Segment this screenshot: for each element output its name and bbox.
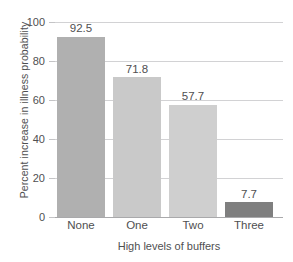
x-tick-label-one: One — [113, 219, 161, 231]
y-tick-label-20: 20 — [33, 173, 49, 184]
x-axis-tick-layer: None One Two Three — [55, 219, 283, 237]
y-tick-label-60: 60 — [33, 95, 49, 106]
bar-value-three: 7.7 — [241, 189, 257, 201]
x-axis-title: High levels of buffers — [55, 240, 283, 252]
y-tick-label-0: 0 — [39, 212, 49, 223]
y-axis-tick-layer: 0 20 40 60 80 100 — [0, 22, 55, 217]
y-tick-40: 40 — [0, 132, 55, 146]
bar-one: 71.8 — [113, 77, 161, 217]
bar-value-one: 71.8 — [126, 64, 148, 76]
x-tick-label-two: Two — [169, 219, 217, 231]
bar-three: 7.7 — [225, 202, 273, 217]
bar-value-two: 57.7 — [182, 91, 204, 103]
bar-chart-figure: Percent increase in illness probability … — [0, 0, 293, 262]
x-axis-baseline — [55, 217, 283, 218]
y-tick-60: 60 — [0, 93, 55, 107]
bar-two: 57.7 — [169, 105, 217, 218]
y-tick-20: 20 — [0, 171, 55, 185]
x-tick-label-three: Three — [225, 219, 273, 231]
y-tick-label-40: 40 — [33, 134, 49, 145]
bar-none: 92.5 — [57, 37, 105, 217]
x-tick-label-none: None — [57, 219, 105, 231]
y-tick-100: 100 — [0, 15, 55, 29]
y-tick-0: 0 — [0, 210, 55, 224]
plot-area: 92.5 71.8 57.7 7.7 — [55, 22, 283, 217]
y-tick-label-80: 80 — [33, 56, 49, 67]
y-tick-80: 80 — [0, 54, 55, 68]
y-tick-label-100: 100 — [27, 17, 49, 28]
bar-value-none: 92.5 — [70, 23, 92, 35]
